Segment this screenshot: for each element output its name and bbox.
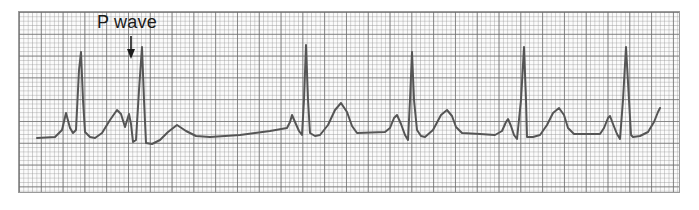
ecg-trace-line — [37, 45, 660, 144]
p-wave-annotation-label: P wave — [97, 12, 157, 32]
p-wave-arrow-icon — [127, 36, 135, 59]
